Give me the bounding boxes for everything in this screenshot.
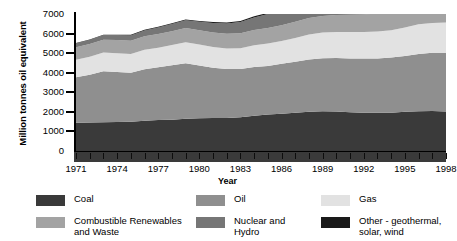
legend-swatch-nuclear-hydro bbox=[196, 217, 225, 228]
x-tick bbox=[391, 153, 392, 159]
x-tick bbox=[172, 153, 173, 159]
x-tick-label: 1989 bbox=[312, 163, 333, 174]
x-tick bbox=[131, 153, 132, 159]
x-tick bbox=[145, 153, 146, 159]
legend-label-oil: Oil bbox=[234, 194, 246, 205]
y-tick-label: 6000 bbox=[43, 28, 64, 39]
x-tick bbox=[158, 153, 159, 159]
x-tick bbox=[309, 153, 310, 159]
y-tick-label: 4000 bbox=[43, 67, 64, 78]
x-tick-label: 1983 bbox=[230, 163, 251, 174]
x-tick bbox=[227, 153, 228, 159]
legend-item-nuclear-hydro: Nuclear and Hydro bbox=[196, 216, 285, 237]
x-tick-label: 1995 bbox=[394, 163, 415, 174]
x-tick bbox=[364, 153, 365, 159]
x-axis-title: Year bbox=[0, 176, 455, 186]
x-tick bbox=[117, 153, 118, 159]
x-tick bbox=[199, 153, 200, 159]
x-tick bbox=[323, 153, 324, 159]
area-series-group bbox=[76, 14, 446, 151]
x-tick-label: 1977 bbox=[148, 163, 169, 174]
x-tick bbox=[446, 153, 447, 159]
legend-swatch-oil bbox=[196, 195, 225, 206]
x-tick bbox=[186, 153, 187, 159]
legend-item-other: Other - geothermal, solar, wind bbox=[321, 216, 441, 237]
x-tick bbox=[405, 153, 406, 159]
x-tick-label: 1986 bbox=[271, 163, 292, 174]
legend-swatch-gas bbox=[321, 195, 350, 206]
legend-swatch-combustible-renewables bbox=[36, 217, 65, 228]
legend-item-combustible-renewables: Combustible Renewables and Waste bbox=[36, 216, 182, 237]
x-tick-label: 1992 bbox=[353, 163, 374, 174]
x-tick bbox=[213, 153, 214, 159]
x-tick bbox=[90, 153, 91, 159]
y-tick-label: 3000 bbox=[43, 86, 64, 97]
y-tick-label: 2000 bbox=[43, 106, 64, 117]
x-tick bbox=[377, 153, 378, 159]
x-tick-label: 1974 bbox=[107, 163, 128, 174]
y-tick-label: 1000 bbox=[43, 125, 64, 136]
x-tick-label: 1971 bbox=[65, 163, 86, 174]
legend-label-combustible-renewables: Combustible Renewables and Waste bbox=[74, 216, 182, 237]
legend-item-gas: Gas bbox=[321, 194, 376, 206]
chart-legend: Coal Oil Gas Combustible Renewables and … bbox=[36, 194, 451, 239]
x-tick bbox=[282, 153, 283, 159]
x-tick bbox=[76, 153, 77, 159]
y-tick-label: 0 bbox=[59, 145, 64, 156]
legend-swatch-coal bbox=[36, 195, 65, 206]
x-tick bbox=[240, 153, 241, 159]
legend-label-coal: Coal bbox=[74, 194, 94, 205]
legend-label-nuclear-hydro: Nuclear and Hydro bbox=[234, 216, 285, 237]
legend-label-other: Other - geothermal, solar, wind bbox=[359, 216, 441, 237]
legend-swatch-other bbox=[321, 217, 350, 228]
x-tick bbox=[419, 153, 420, 159]
legend-label-gas: Gas bbox=[359, 194, 376, 205]
x-tick bbox=[254, 153, 255, 159]
legend-item-oil: Oil bbox=[196, 194, 246, 206]
y-tick-label: 7000 bbox=[43, 8, 64, 19]
x-tick bbox=[295, 153, 296, 159]
x-tick-label: 1998 bbox=[435, 163, 456, 174]
plot-area bbox=[76, 14, 446, 151]
x-tick bbox=[336, 153, 337, 159]
x-tick bbox=[103, 153, 104, 159]
legend-item-coal: Coal bbox=[36, 194, 94, 206]
x-axis-line bbox=[74, 151, 446, 152]
y-tick-label: 5000 bbox=[43, 47, 64, 58]
x-tick bbox=[350, 153, 351, 159]
x-tick bbox=[432, 153, 433, 159]
x-tick-label: 1980 bbox=[189, 163, 210, 174]
x-tick bbox=[268, 153, 269, 159]
y-axis-line bbox=[74, 12, 76, 153]
